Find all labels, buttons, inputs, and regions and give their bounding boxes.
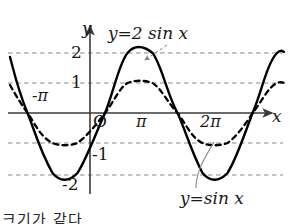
- curve-label-sinx: y=sin x: [180, 190, 244, 207]
- y-tick-label-2: 2: [71, 44, 82, 61]
- curve-label-2sinx: y=2 sin x: [108, 25, 188, 42]
- y-tick-label-neg1: -1: [92, 146, 109, 163]
- y-axis-label: y: [82, 20, 92, 37]
- y-tick-label-neg2: -2: [62, 176, 79, 193]
- axes: [8, 26, 272, 194]
- sine-graph-figure: y x 2 1 -1 -2 O -π π 2π y=2 sin x y=sin …: [0, 0, 291, 224]
- x-tick-label-pi: π: [136, 114, 147, 130]
- x-tick-label-neg-pi: -π: [32, 88, 48, 104]
- figure-caption-clipped: 크기가 같다: [2, 208, 83, 224]
- x-tick-label-2pi: 2π: [200, 114, 221, 130]
- origin-label: O: [93, 113, 107, 130]
- y-tick-label-1: 1: [71, 74, 82, 91]
- x-axis-label: x: [272, 108, 282, 125]
